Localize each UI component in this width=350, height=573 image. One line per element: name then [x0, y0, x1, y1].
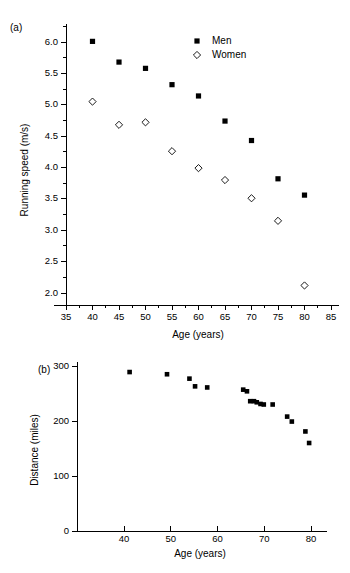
- panel-b-y-tick-label: 100: [53, 470, 69, 481]
- data-point-men: [169, 82, 174, 87]
- data-point-distance: [307, 441, 312, 446]
- panel-a-y-tick-label: 5.0: [45, 98, 58, 109]
- figure-running-performance-vs-age: 2.02.53.03.54.04.55.05.56.03540455055606…: [0, 0, 350, 573]
- panel-a-y-tick-label: 4.0: [45, 161, 58, 172]
- data-point-men: [116, 59, 121, 64]
- data-point-women: [248, 195, 255, 202]
- data-point-men: [143, 66, 148, 71]
- panel-b-y-tick-label: 0: [64, 525, 69, 536]
- data-point-distance: [165, 372, 170, 377]
- data-point-distance: [127, 370, 132, 375]
- legend-label-men: Men: [212, 35, 231, 46]
- data-point-men: [302, 193, 307, 198]
- panel-b-y-axis-title: Distance (miles): [29, 414, 40, 486]
- panel-a-x-tick-label: 60: [193, 311, 204, 322]
- panel-b-distance: 01002003004050607080 Age (years) Distanc…: [0, 345, 350, 573]
- data-point-distance: [285, 414, 290, 419]
- panel-a-x-tick-label: 55: [167, 311, 178, 322]
- panel-b-x-tick-label: 40: [119, 533, 130, 544]
- panel-a-y-tick-label: 3.0: [45, 224, 58, 235]
- data-point-women: [195, 165, 202, 172]
- data-point-men: [196, 93, 201, 98]
- panel-a-label: (a): [10, 22, 22, 33]
- data-point-distance: [290, 419, 295, 424]
- panel-a-y-axis-title: Running speed (m/s): [19, 124, 30, 217]
- panel-a-x-tick-label: 75: [273, 311, 284, 322]
- data-point-women: [89, 98, 96, 105]
- data-point-distance: [193, 384, 198, 389]
- data-point-distance: [245, 389, 250, 394]
- legend-marker-men: [194, 38, 199, 43]
- panel-a-x-tick-label: 80: [299, 311, 310, 322]
- panel-b-y-tick-label: 200: [53, 415, 69, 426]
- panel-a-x-axis-title: Age (years): [172, 329, 224, 340]
- panel-a-x-tick-label: 65: [220, 311, 231, 322]
- data-point-women: [221, 176, 228, 183]
- data-point-distance: [303, 429, 308, 434]
- panel-b-x-tick-label: 80: [306, 533, 317, 544]
- panel-b-x-tick-label: 70: [259, 533, 270, 544]
- panel-b-y-tick-label: 300: [53, 360, 69, 371]
- panel-a-y-tick-label: 2.5: [45, 255, 58, 266]
- panel-a-y-tick-label: 5.5: [45, 67, 58, 78]
- legend-label-women: Women: [212, 49, 246, 60]
- data-point-men: [222, 118, 227, 123]
- data-point-distance: [205, 385, 210, 390]
- data-point-women: [301, 282, 308, 289]
- panel-a-x-tick-label: 85: [326, 311, 337, 322]
- data-point-women: [115, 121, 122, 128]
- legend-marker-women: [193, 51, 200, 58]
- panel-b-x-tick-label: 50: [165, 533, 176, 544]
- data-point-distance: [261, 402, 266, 407]
- panel-a-y-tick-label: 4.5: [45, 130, 58, 141]
- panel-a-y-tick-label: 3.5: [45, 192, 58, 203]
- panel-a-y-tick-label: 6.0: [45, 36, 58, 47]
- panel-b-label: (b): [38, 364, 50, 375]
- panel-a-x-tick-label: 70: [246, 311, 257, 322]
- data-point-men: [249, 138, 254, 143]
- panel-a-running-speed: 2.02.53.03.54.04.55.05.56.03540455055606…: [0, 0, 350, 345]
- panel-a-x-tick-label: 40: [87, 311, 98, 322]
- panel-a-plot: 2.02.53.03.54.04.55.05.56.03540455055606…: [0, 0, 350, 345]
- panel-a-x-tick-label: 50: [140, 311, 151, 322]
- data-point-women: [168, 148, 175, 155]
- data-point-women: [274, 217, 281, 224]
- panel-b-x-tick-label: 60: [212, 533, 223, 544]
- panel-a-x-tick-label: 45: [114, 311, 125, 322]
- data-point-men: [90, 39, 95, 44]
- panel-a-y-tick-label: 2.0: [45, 287, 58, 298]
- data-point-men: [275, 176, 280, 181]
- panel-b-plot: 01002003004050607080 Age (years) Distanc…: [0, 345, 350, 573]
- data-point-women: [142, 119, 149, 126]
- panel-a-x-tick-label: 35: [61, 311, 72, 322]
- data-point-distance: [187, 376, 192, 381]
- data-point-distance: [270, 402, 275, 407]
- panel-b-x-axis-title: Age (years): [174, 548, 226, 559]
